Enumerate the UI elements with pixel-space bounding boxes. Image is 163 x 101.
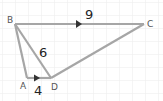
vertex-label-c: C	[147, 19, 153, 29]
measure-label-bc: 9	[85, 7, 93, 22]
vertex-label-a: A	[20, 81, 27, 91]
vertex-label-d: D	[51, 82, 58, 92]
measure-label-ad: 4	[34, 83, 42, 98]
diagram-svg: B C A D 9 6 4	[0, 0, 163, 101]
geometry-diagram: B C A D 9 6 4	[0, 0, 163, 101]
vertex-label-b: B	[7, 15, 13, 25]
measure-label-bd: 6	[39, 45, 47, 60]
